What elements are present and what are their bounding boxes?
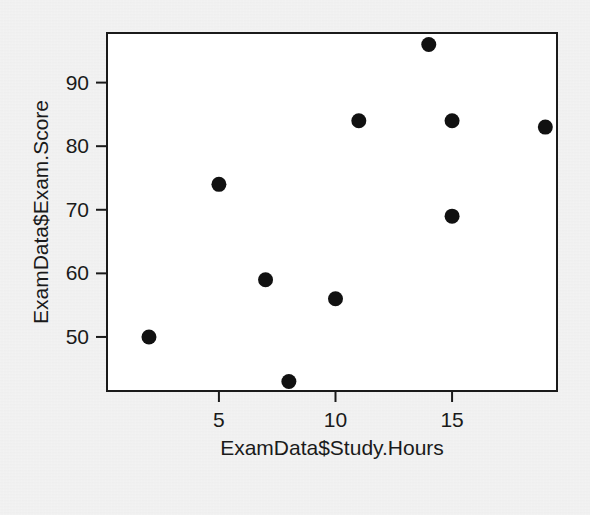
data-point xyxy=(421,37,436,52)
data-point xyxy=(328,291,343,306)
y-axis-tick-labels: 5060708090 xyxy=(66,71,89,348)
y-tick-label: 70 xyxy=(66,198,89,221)
y-tick-label: 90 xyxy=(66,71,89,94)
data-point xyxy=(211,177,226,192)
plot-panel-background xyxy=(107,33,557,391)
y-axis-title: ExamData$Exam.Score xyxy=(29,100,52,324)
y-tick-label: 80 xyxy=(66,134,89,157)
x-tick-label: 10 xyxy=(324,408,347,431)
x-tick-label: 5 xyxy=(213,408,225,431)
data-point xyxy=(351,113,366,128)
data-point xyxy=(538,120,553,135)
x-axis-ticks xyxy=(219,391,452,402)
x-axis-tick-labels: 51015 xyxy=(213,408,464,431)
y-tick-label: 50 xyxy=(66,325,89,348)
data-point xyxy=(141,329,156,344)
y-tick-label: 60 xyxy=(66,261,89,284)
data-point xyxy=(258,272,273,287)
data-point xyxy=(445,209,460,224)
x-axis-title: ExamData$Study.Hours xyxy=(220,436,444,459)
data-point xyxy=(281,374,296,389)
plot-canvas: 51015 5060708090 ExamData$Study.Hours Ex… xyxy=(0,0,590,515)
x-tick-label: 15 xyxy=(440,408,463,431)
data-point xyxy=(445,113,460,128)
y-axis-ticks xyxy=(96,83,107,337)
scatter-plot-figure: 51015 5060708090 ExamData$Study.Hours Ex… xyxy=(0,0,590,515)
